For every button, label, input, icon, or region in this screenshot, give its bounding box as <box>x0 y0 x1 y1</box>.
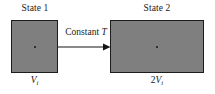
gas-container-state-2 <box>110 20 204 73</box>
temperature-symbol: T <box>101 27 106 37</box>
gas-particle-dot <box>156 46 158 48</box>
state-2-title: State 2 <box>110 3 204 13</box>
process-label: Constant T <box>55 27 117 37</box>
volume-subscript-state-1: i <box>36 79 38 86</box>
volume-subscript-state-2: i <box>161 79 163 86</box>
gas-particle-dot <box>34 46 36 48</box>
thermodynamic-process-diagram: State 1 Vi Constant T State 2 2Vi <box>0 0 215 94</box>
process-label-prefix: Constant <box>65 27 101 37</box>
volume-label-state-1: Vi <box>11 75 58 86</box>
volume-label-state-2: 2Vi <box>110 75 204 86</box>
state-1-title: State 1 <box>0 3 70 13</box>
gas-container-state-1 <box>11 20 58 73</box>
process-arrow-icon <box>58 41 111 53</box>
